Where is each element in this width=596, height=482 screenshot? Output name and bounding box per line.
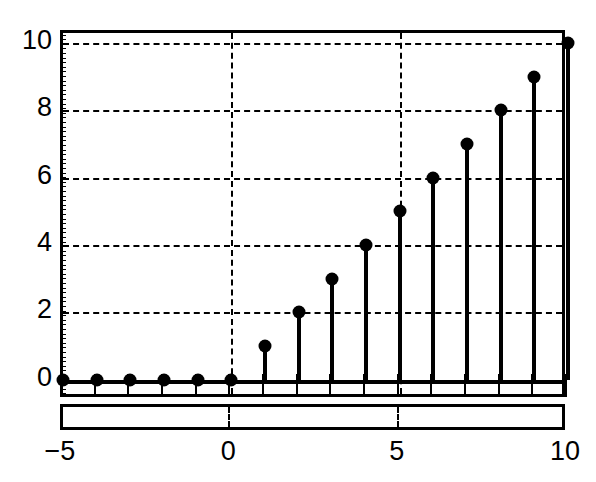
y-minor-tick: [60, 108, 66, 109]
y-minor-tick: [60, 168, 66, 169]
x-minor-tick-1: [262, 374, 264, 397]
y-minor-tick: [60, 347, 66, 348]
y-minor-tick: [60, 67, 66, 68]
stem-line: [566, 43, 570, 380]
x-band-tick-0: [228, 407, 230, 427]
y-minor-tick: [60, 44, 66, 45]
stem-line: [532, 77, 536, 380]
y-minor-tick: [60, 219, 66, 220]
y-minor-tick: [60, 113, 66, 114]
y-minor-tick: [60, 122, 66, 123]
y-minor-tick: [60, 283, 66, 284]
x-minor-tick-10: [565, 374, 567, 397]
x-tick-label-10: 10: [550, 438, 580, 465]
y-minor-tick: [60, 237, 66, 238]
y-minor-tick: [60, 297, 66, 298]
data-point-marker: [562, 37, 575, 50]
x-axis-minor-ticks: [60, 374, 565, 397]
x-tick-label-5: 5: [389, 438, 404, 465]
x-minor-tick-7: [464, 374, 466, 397]
y-minor-tick: [60, 265, 66, 266]
y-minor-tick: [60, 182, 66, 183]
y-minor-tick: [60, 131, 66, 132]
y-minor-tick: [60, 76, 66, 77]
y-minor-tick: [60, 343, 66, 344]
y-minor-tick: [60, 251, 66, 252]
y-minor-tick: [60, 306, 66, 307]
y-minor-tick: [60, 338, 66, 339]
data-point-marker: [292, 306, 305, 319]
x-tick-label-0: 0: [221, 438, 236, 465]
y-minor-tick: [60, 269, 66, 270]
y-minor-tick: [60, 85, 66, 86]
y-tick-label-8: 8: [37, 94, 60, 121]
y-minor-tick: [60, 246, 66, 247]
gridline-y-10: [63, 43, 562, 45]
x-minor-tick-4: [363, 374, 365, 397]
y-minor-tick: [60, 104, 66, 105]
y-axis-minor-ticks: [60, 30, 66, 397]
y-minor-tick: [60, 71, 66, 72]
y-minor-tick: [60, 177, 66, 178]
y-minor-tick: [60, 292, 66, 293]
y-minor-tick: [60, 311, 66, 312]
y-minor-tick: [60, 154, 66, 155]
y-minor-tick: [60, 196, 66, 197]
y-minor-tick: [60, 366, 66, 367]
x-minor-tick--5: [60, 374, 62, 397]
y-minor-tick: [60, 173, 66, 174]
stem-line: [330, 279, 334, 380]
y-minor-tick: [60, 186, 66, 187]
y-minor-tick: [60, 324, 66, 325]
x-minor-tick-2: [296, 374, 298, 397]
y-minor-tick: [60, 200, 66, 201]
y-minor-tick: [60, 159, 66, 160]
y-minor-tick: [60, 242, 66, 243]
data-point-marker: [528, 70, 541, 83]
y-minor-tick: [60, 352, 66, 353]
y-minor-tick: [60, 127, 66, 128]
gridline-x-0: [231, 33, 233, 394]
x-minor-tick-9: [531, 374, 533, 397]
y-minor-tick: [60, 62, 66, 63]
y-minor-tick: [60, 53, 66, 54]
x-axis-band: [60, 404, 565, 430]
y-minor-tick: [60, 90, 66, 91]
y-minor-tick: [60, 228, 66, 229]
y-minor-tick: [60, 361, 66, 362]
data-point-marker: [259, 340, 272, 353]
x-minor-tick-8: [498, 374, 500, 397]
gridline-y-4: [63, 245, 562, 247]
x-tick-label--5: −5: [45, 438, 76, 465]
y-minor-tick: [60, 209, 66, 210]
x-minor-tick-0: [228, 374, 230, 397]
x-minor-tick--3: [127, 374, 129, 397]
y-minor-tick: [60, 94, 66, 95]
gridline-y-8: [63, 110, 562, 112]
y-minor-tick: [60, 99, 66, 100]
y-minor-tick: [60, 232, 66, 233]
stem-line: [465, 144, 469, 380]
y-minor-tick: [60, 278, 66, 279]
y-minor-tick: [60, 274, 66, 275]
y-minor-tick: [60, 140, 66, 141]
y-minor-tick: [60, 205, 66, 206]
x-minor-tick-3: [329, 374, 331, 397]
x-minor-tick-5: [397, 374, 399, 397]
y-minor-tick: [60, 191, 66, 192]
data-point-marker: [326, 272, 339, 285]
x-minor-tick--4: [94, 374, 96, 397]
stem-line: [499, 110, 503, 379]
x-minor-tick-6: [430, 374, 432, 397]
y-minor-tick: [60, 315, 66, 316]
data-point-marker: [427, 171, 440, 184]
gridline-y-2: [63, 312, 562, 314]
stem-line: [431, 178, 435, 380]
y-minor-tick: [60, 255, 66, 256]
y-minor-tick: [60, 357, 66, 358]
stem-line: [364, 245, 368, 380]
y-minor-tick: [60, 288, 66, 289]
data-point-marker: [461, 138, 474, 151]
y-minor-tick: [60, 39, 66, 40]
y-minor-tick: [60, 81, 66, 82]
